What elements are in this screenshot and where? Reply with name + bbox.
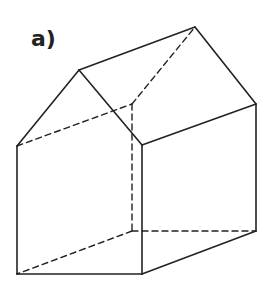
house-prism-diagram	[0, 0, 271, 307]
visible-edge	[142, 104, 256, 145]
visible-edge	[195, 27, 256, 104]
visible-edge	[142, 231, 256, 274]
hidden-edge	[17, 231, 132, 274]
visible-edges	[17, 27, 256, 274]
hidden-edges	[17, 27, 256, 274]
